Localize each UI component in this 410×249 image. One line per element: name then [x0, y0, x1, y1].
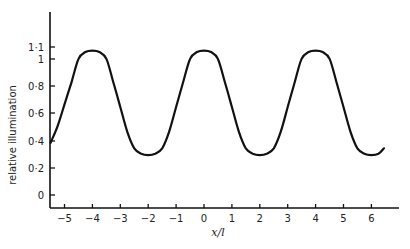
y-tick-label: 0·6: [28, 108, 44, 119]
y-ticks: 00·20·40·60·811·1: [28, 42, 55, 201]
x-tick-label: −3: [113, 213, 128, 224]
x-tick-label: 2: [257, 213, 263, 224]
y-tick-label: 1: [38, 54, 44, 65]
x-tick-label: 5: [340, 213, 346, 224]
y-tick-label: 0·8: [28, 81, 44, 92]
x-tick-label: 4: [312, 213, 318, 224]
y-tick-label: 0: [38, 190, 44, 201]
axes: [50, 12, 399, 208]
y-tick-label: 0·2: [28, 163, 44, 174]
y-tick-label: 0·4: [28, 136, 44, 147]
x-tick-label: −2: [141, 213, 156, 224]
x-tick-label: −1: [169, 213, 184, 224]
x-axis-title: x/l: [211, 226, 225, 239]
y-axis-title: relative illumination: [7, 85, 18, 185]
x-tick-label: 6: [368, 213, 374, 224]
x-tick-label: 0: [201, 213, 207, 224]
chart: −5−4−3−2−10123456 00·20·40·60·811·1 rela…: [0, 0, 410, 249]
x-tick-label: 3: [285, 213, 291, 224]
illumination-curve: [51, 51, 384, 156]
x-tick-label: 1: [229, 213, 235, 224]
x-tick-label: −5: [57, 213, 72, 224]
y-tick-label: 1·1: [28, 42, 44, 53]
x-tick-label: −4: [85, 213, 100, 224]
x-ticks: −5−4−3−2−10123456: [57, 204, 374, 224]
